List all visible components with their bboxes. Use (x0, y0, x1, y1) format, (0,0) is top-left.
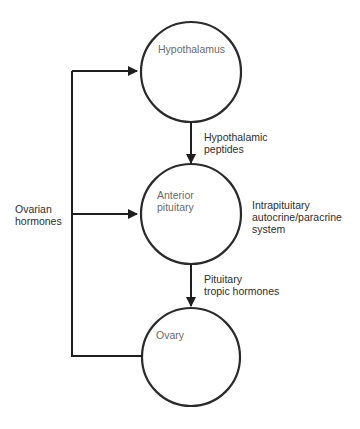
pituitary-tropic-line-2: tropic hormones (204, 285, 279, 297)
anterior-pituitary-line-1: Anterior (157, 189, 194, 201)
ovary-label: Ovary (156, 329, 184, 341)
pituitary-tropic-line-1: Pituitary (204, 273, 279, 285)
anterior-pituitary-label: Anterior pituitary (157, 189, 194, 213)
intrapituitary-line-2: autocrine/paracrine (252, 211, 342, 223)
hypothalamic-peptides-line-1: Hypothalamic (204, 131, 268, 143)
hypothalamus-text: Hypothalamus (158, 43, 225, 55)
anterior-pituitary-line-2: pituitary (157, 201, 194, 213)
pituitary-tropic-hormones-label: Pituitary tropic hormones (204, 273, 279, 297)
ovarian-hormones-line-1: Ovarian (15, 203, 62, 215)
anterior-pituitary-node (141, 164, 241, 264)
ovary-node (142, 308, 240, 406)
ovarian-hormones-line-2: hormones (15, 215, 62, 227)
hypothalamic-peptides-label: Hypothalamic peptides (204, 131, 268, 155)
hypothalamus-node (141, 22, 241, 122)
hypothalamus-label: Hypothalamus (158, 43, 225, 55)
hypothalamic-peptides-line-2: peptides (204, 143, 268, 155)
intrapituitary-line-3: system (252, 223, 342, 235)
intrapituitary-system-label: Intrapituitary autocrine/paracrine syste… (252, 199, 342, 235)
ovarian-hormones-label: Ovarian hormones (15, 203, 62, 227)
ovary-text: Ovary (156, 329, 184, 341)
intrapituitary-line-1: Intrapituitary (252, 199, 342, 211)
